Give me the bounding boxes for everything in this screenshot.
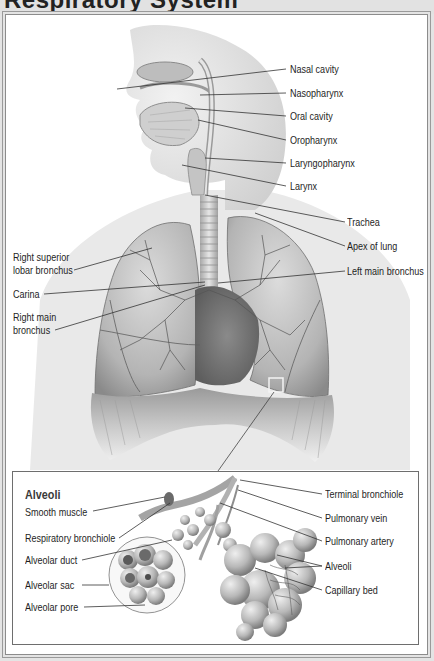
label-carina: Carina [13,288,40,301]
label-pulmonary-artery: Pulmonary artery [325,535,394,548]
label-terminal-bronchiole: Terminal bronchiole [325,488,403,501]
label-pulmonary-vein: Pulmonary vein [325,512,387,525]
label-laryngopharynx: Laryngopharynx [290,157,355,170]
label-alveolar-sac: Alveolar sac [25,579,74,592]
label-nasal-cavity: Nasal cavity [290,63,339,76]
trachea-shape [200,195,218,290]
label-right-superior-lobar-bronchus-line1: Right superior [13,251,69,264]
inset-title: Alveoli [25,488,60,502]
label-right-main-bronchus-line2: bronchus [13,324,50,337]
label-smooth-muscle: Smooth muscle [25,506,87,519]
label-right-superior-lobar-bronchus-line2: lobar bronchus [13,264,73,277]
label-apex-of-lung: Apex of lung [347,240,397,253]
label-larynx: Larynx [290,180,317,193]
label-left-main-bronchus: Left main bronchus [347,265,424,278]
label-right-main-bronchus-line1: Right main [13,311,56,324]
label-trachea: Trachea [347,216,380,229]
label-alveolar-duct: Alveolar duct [25,554,77,567]
label-nasopharynx: Nasopharynx [290,87,343,100]
head-cross-section [126,25,286,210]
label-alveoli: Alveoli [325,560,352,573]
label-oropharynx: Oropharynx [290,134,337,147]
label-respiratory-bronchiole: Respiratory bronchiole [25,532,115,545]
label-alveolar-pore: Alveolar pore [25,601,78,614]
label-capillary-bed: Capillary bed [325,584,378,597]
label-oral-cavity: Oral cavity [290,110,333,123]
